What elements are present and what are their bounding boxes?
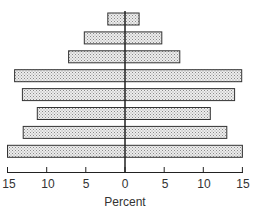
pyramid-bar — [84, 32, 162, 44]
tick-label: 10 — [197, 177, 211, 191]
pyramid-bar — [69, 51, 180, 63]
tick-label: 0 — [122, 177, 129, 191]
pyramid-bar — [37, 108, 210, 120]
tick-label: 15 — [2, 177, 16, 191]
pyramid-bar — [15, 70, 242, 82]
tick-label: 15 — [236, 177, 250, 191]
x-axis-tick-labels: 15 10 5 0 5 10 15 — [2, 177, 250, 191]
pyramid-bar — [108, 13, 139, 25]
tick-label: 5 — [162, 177, 169, 191]
tick-label: 10 — [41, 177, 55, 191]
population-pyramid-chart: 15 10 5 0 5 10 15 Percent — [0, 0, 256, 214]
pyramid-bar — [22, 89, 234, 101]
tick-label: 5 — [83, 177, 90, 191]
x-axis-title: Percent — [104, 195, 146, 209]
